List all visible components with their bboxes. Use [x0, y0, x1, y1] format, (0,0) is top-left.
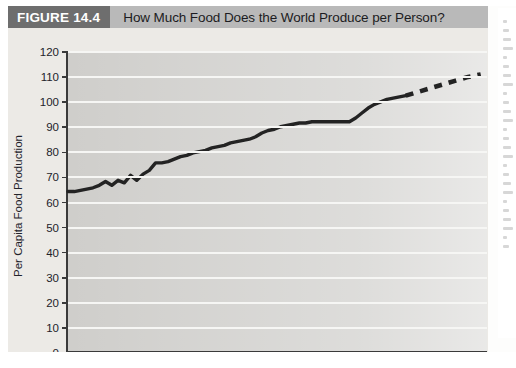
y-tick-30 — [62, 277, 68, 279]
gridline-y-70 — [68, 176, 487, 178]
chart-container: Per Capita Food Production Year 01020304… — [8, 28, 488, 352]
y-tick-label-90: 90 — [46, 121, 59, 133]
page-margin-left — [0, 0, 8, 368]
plot-area: 0102030405060708090100110120195019551960… — [66, 52, 487, 353]
y-axis-title: Per Capita Food Production — [12, 135, 24, 277]
page-margin-bottom — [0, 352, 516, 368]
y-tick-label-50: 50 — [46, 222, 59, 234]
y-tick-label-60: 60 — [46, 197, 59, 209]
y-tick-label-110: 110 — [41, 71, 59, 83]
y-tick-20 — [62, 302, 68, 304]
figure-number-label: FIGURE 14.4 — [8, 6, 110, 28]
y-tick-90 — [62, 126, 68, 128]
gridline-y-90 — [68, 126, 487, 128]
y-tick-label-40: 40 — [46, 247, 59, 259]
gridline-y-10 — [68, 327, 487, 329]
gridline-y-20 — [68, 302, 487, 304]
gridline-y-60 — [68, 202, 487, 204]
y-tick-100 — [62, 101, 68, 103]
figure-title: How Much Food Does the World Produce per… — [110, 6, 488, 28]
y-tick-60 — [62, 202, 68, 204]
page-margin-top — [0, 0, 516, 6]
gridline-y-120 — [68, 51, 487, 53]
y-tick-80 — [62, 152, 68, 154]
gridline-y-50 — [68, 227, 487, 229]
y-tick-110 — [62, 76, 68, 78]
y-tick-50 — [62, 227, 68, 229]
y-tick-10 — [62, 327, 68, 329]
gridline-y-40 — [68, 252, 487, 254]
y-tick-label-10: 10 — [46, 322, 59, 334]
y-tick-label-80: 80 — [46, 146, 59, 158]
y-tick-40 — [62, 252, 68, 254]
y-tick-label-120: 120 — [40, 46, 59, 58]
y-tick-label-70: 70 — [46, 171, 59, 183]
figure-root: FIGURE 14.4 How Much Food Does the World… — [0, 0, 516, 368]
y-tick-label-100: 100 — [40, 96, 59, 108]
gridline-y-30 — [68, 277, 487, 279]
y-tick-label-20: 20 — [46, 297, 59, 309]
facing-page-sliver — [498, 8, 516, 338]
y-tick-70 — [62, 177, 68, 179]
y-tick-label-30: 30 — [46, 272, 59, 284]
gridline-y-100 — [68, 101, 487, 103]
gridline-y-80 — [68, 151, 487, 153]
gridline-y-110 — [68, 76, 487, 78]
y-tick-120 — [62, 51, 68, 53]
figure-header: FIGURE 14.4 How Much Food Does the World… — [8, 6, 488, 28]
